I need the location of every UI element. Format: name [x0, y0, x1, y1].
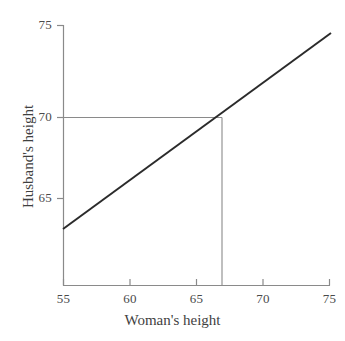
- x-tick-label-65: 65: [182, 291, 212, 307]
- chart-figure: 75 70 65 55 60 65 70 75 Woman's height H…: [0, 0, 345, 341]
- regression-line: [63, 33, 331, 229]
- x-tick-label-55: 55: [49, 291, 79, 307]
- y-axis-title: Husband's height: [20, 67, 37, 247]
- x-tick-label-60: 60: [115, 291, 145, 307]
- x-tick-label-70: 70: [248, 291, 278, 307]
- x-tick-label-75: 75: [315, 291, 345, 307]
- x-axis-title: Woman's height: [0, 312, 345, 329]
- chart-plot-area: [0, 0, 345, 341]
- y-tick-label-75: 75: [26, 17, 52, 33]
